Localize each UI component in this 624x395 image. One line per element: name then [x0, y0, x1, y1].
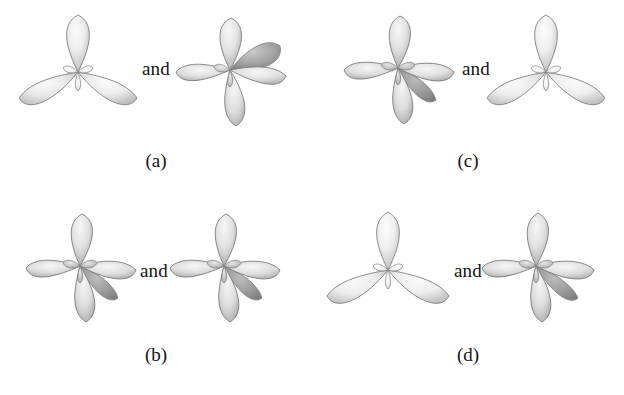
orbital-pair-a: and: [0, 0, 312, 150]
orbital-diagram-a-right: [162, 2, 302, 148]
panel-label-c: (c): [312, 150, 624, 172]
sp3-tetrahedral-orbital-set-icon: [158, 200, 298, 346]
sp2-trigonal-orbital-set-icon: [480, 2, 620, 148]
sp2-trigonal-orbital-set-icon: [8, 2, 148, 148]
panel-label-a: (a): [0, 150, 312, 172]
orbital-diagram-c-left: [334, 2, 474, 148]
figure-panel-d: and: [312, 198, 624, 395]
sp3-tetrahedral-orbital-set-icon: [162, 2, 302, 148]
sp3-tetrahedral-orbital-set-icon: [472, 200, 612, 346]
panel-label-d: (d): [312, 344, 624, 366]
orbital-diagram-a-left: [8, 2, 148, 148]
figure-panel-a: and: [0, 0, 312, 197]
orbital-pair-b: and: [0, 198, 312, 348]
orbital-diagram-d-left: [318, 200, 458, 346]
figure-panel-c: and: [312, 0, 624, 197]
sp3-tetrahedral-orbital-set-icon: [334, 2, 474, 148]
orbital-diagram-b-right: [158, 200, 298, 346]
orbital-diagram-c-right: [480, 2, 620, 148]
sp2-trigonal-orbital-set-icon: [318, 200, 458, 346]
figure-panel-b: and: [0, 198, 312, 395]
orbital-pair-d: and: [312, 198, 624, 348]
orbital-figure: and: [0, 0, 624, 395]
orbital-pair-c: and: [312, 0, 624, 150]
orbital-diagram-d-right: [472, 200, 612, 346]
panel-label-b: (b): [0, 344, 312, 366]
